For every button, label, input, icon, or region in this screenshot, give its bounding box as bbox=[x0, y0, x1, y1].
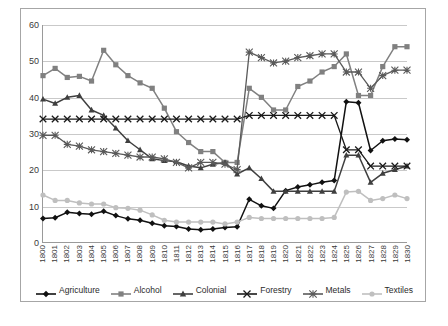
data-point bbox=[40, 132, 47, 139]
data-point bbox=[283, 107, 288, 112]
series-colonial bbox=[40, 92, 410, 193]
data-point bbox=[246, 196, 252, 202]
data-point bbox=[137, 217, 143, 223]
data-point bbox=[185, 164, 192, 171]
series-line bbox=[43, 47, 407, 163]
legend-item-alcohol[interactable]: Alcohol bbox=[111, 285, 162, 295]
data-point bbox=[355, 100, 361, 106]
data-point bbox=[198, 220, 203, 225]
data-point bbox=[283, 216, 288, 221]
data-point bbox=[367, 85, 374, 92]
x-tick-label-1823: 1823 bbox=[317, 245, 326, 263]
legend-label: Textiles bbox=[385, 285, 413, 295]
legend-marker-triangle-icon bbox=[173, 285, 193, 295]
x-tick-label-1817: 1817 bbox=[244, 245, 253, 263]
data-point bbox=[271, 107, 276, 112]
data-point bbox=[332, 215, 337, 220]
x-tick-label-1812: 1812 bbox=[184, 245, 193, 263]
chart-legend: AgricultureAlcoholColonialForestryMetals… bbox=[42, 281, 407, 299]
data-point bbox=[64, 141, 71, 148]
x-tick-label-1807: 1807 bbox=[123, 245, 132, 263]
data-point bbox=[89, 78, 94, 83]
data-point bbox=[404, 67, 411, 74]
x-tick-label-1818: 1818 bbox=[257, 245, 266, 263]
data-point bbox=[379, 72, 386, 79]
x-tick-label-1824: 1824 bbox=[330, 245, 339, 263]
plot-area: 0102030405060 bbox=[42, 25, 407, 243]
data-point bbox=[356, 93, 361, 98]
data-point bbox=[101, 208, 107, 214]
data-point bbox=[65, 75, 70, 80]
data-point bbox=[343, 69, 350, 76]
data-point bbox=[174, 129, 179, 134]
x-tick-label-1808: 1808 bbox=[135, 245, 144, 263]
data-point bbox=[404, 44, 409, 49]
data-point bbox=[259, 95, 264, 100]
data-point bbox=[295, 216, 300, 221]
data-point bbox=[258, 54, 265, 61]
x-tick-label-1810: 1810 bbox=[159, 245, 168, 263]
legend-item-agriculture[interactable]: Agriculture bbox=[36, 285, 100, 295]
data-point bbox=[344, 51, 349, 56]
data-point bbox=[331, 50, 338, 57]
legend-label: Alcohol bbox=[134, 285, 162, 295]
series-alcohol bbox=[40, 44, 409, 165]
data-point bbox=[89, 201, 94, 206]
x-tick-label-1822: 1822 bbox=[305, 245, 314, 263]
series-line bbox=[43, 52, 407, 170]
data-point bbox=[391, 67, 398, 74]
x-tick-label-1813: 1813 bbox=[196, 245, 205, 263]
data-point bbox=[246, 165, 252, 171]
data-point bbox=[124, 152, 131, 159]
legend-marker-x-icon bbox=[237, 285, 257, 295]
series-layer bbox=[43, 25, 407, 242]
x-tick-label-1830: 1830 bbox=[403, 245, 412, 263]
data-point bbox=[76, 143, 83, 150]
data-point bbox=[270, 59, 277, 66]
data-point bbox=[161, 223, 167, 229]
legend-item-forestry[interactable]: Forestry bbox=[237, 285, 291, 295]
data-point bbox=[210, 149, 215, 154]
data-point bbox=[209, 159, 216, 166]
data-point bbox=[210, 226, 216, 232]
legend-item-textiles[interactable]: Textiles bbox=[362, 285, 413, 295]
data-point bbox=[259, 216, 264, 221]
data-point bbox=[186, 220, 191, 225]
data-point bbox=[40, 96, 46, 102]
data-point bbox=[40, 73, 45, 78]
data-point bbox=[319, 179, 325, 185]
y-tick-label-20: 20 bbox=[29, 165, 39, 175]
legend-item-metals[interactable]: Metals bbox=[303, 285, 351, 295]
data-point bbox=[150, 212, 155, 217]
data-point bbox=[404, 196, 409, 201]
data-point bbox=[198, 227, 204, 233]
x-tick-label-1803: 1803 bbox=[74, 245, 83, 263]
x-tick-label-1826: 1826 bbox=[354, 245, 363, 263]
legend-item-colonial[interactable]: Colonial bbox=[173, 285, 227, 295]
data-point bbox=[52, 132, 59, 139]
x-tick-label-1825: 1825 bbox=[342, 245, 351, 263]
data-point bbox=[319, 50, 326, 57]
data-point bbox=[186, 140, 191, 145]
data-point bbox=[113, 213, 119, 219]
series-line bbox=[43, 96, 407, 192]
data-point bbox=[149, 220, 155, 226]
data-point bbox=[88, 146, 95, 153]
data-point bbox=[319, 216, 324, 221]
data-point bbox=[331, 178, 337, 184]
data-point bbox=[392, 44, 397, 49]
data-point bbox=[332, 64, 337, 69]
data-point bbox=[222, 161, 229, 168]
data-point bbox=[125, 73, 130, 78]
data-point bbox=[392, 192, 397, 197]
series-textiles bbox=[40, 189, 409, 227]
data-point bbox=[235, 220, 240, 225]
data-point bbox=[271, 216, 276, 221]
series-line bbox=[43, 115, 407, 166]
chart-container: 0102030405060 18001801180218031804180518… bbox=[20, 8, 426, 302]
legend-label: Agriculture bbox=[59, 285, 100, 295]
data-point bbox=[306, 52, 313, 59]
data-point bbox=[368, 198, 373, 203]
data-point bbox=[101, 201, 106, 206]
legend-label: Forestry bbox=[260, 285, 291, 295]
